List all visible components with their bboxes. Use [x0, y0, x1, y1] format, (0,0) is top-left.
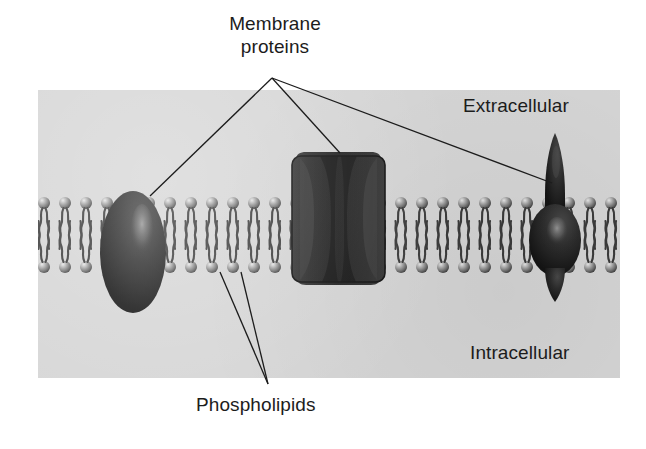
label-membrane-proteins: Membraneproteins	[190, 12, 360, 58]
label-membrane-proteins-line1: Membrane	[229, 13, 321, 34]
label-extracellular: Extracellular	[463, 94, 569, 117]
receptor-spike-protein	[529, 133, 581, 302]
membrane-panel: A	[38, 90, 620, 378]
membrane-diagram-figure: Membraneproteins	[0, 0, 646, 449]
label-intracellular: Intracellular	[470, 341, 570, 364]
label-phospholipids: Phospholipids	[196, 393, 316, 416]
channel-protein	[292, 152, 385, 285]
peripheral-ellipse-protein	[100, 191, 166, 313]
membrane-proteins-group	[38, 90, 620, 378]
label-membrane-proteins-line2: proteins	[241, 36, 309, 57]
